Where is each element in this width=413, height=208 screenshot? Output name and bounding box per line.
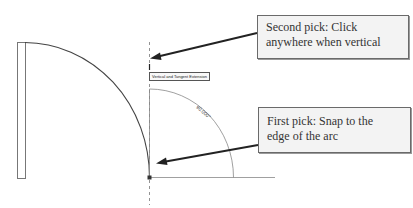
snap-point-marker[interactable]: [148, 176, 152, 180]
first-pick-arrow: [163, 145, 258, 162]
first-pick-callout: First pick: Snap to the edge of the arc: [258, 107, 411, 153]
second-pick-callout-line2: anywhere when vertical: [266, 35, 400, 50]
snap-tooltip: Vertical and Tangent Extension: [149, 72, 210, 81]
second-pick-callout-line1: Second pick: Click: [266, 20, 400, 35]
door-panel: [18, 43, 26, 179]
first-pick-callout-line1: First pick: Snap to the: [267, 114, 402, 129]
second-pick-arrowhead-icon: [150, 53, 162, 61]
second-pick-arrow: [156, 33, 257, 57]
second-pick-callout: Second pick: Click anywhere when vertica…: [257, 15, 409, 59]
door-swing-arc: [25, 43, 150, 178]
first-pick-arrowhead-icon: [156, 158, 168, 166]
first-pick-callout-line2: edge of the arc: [267, 129, 402, 144]
